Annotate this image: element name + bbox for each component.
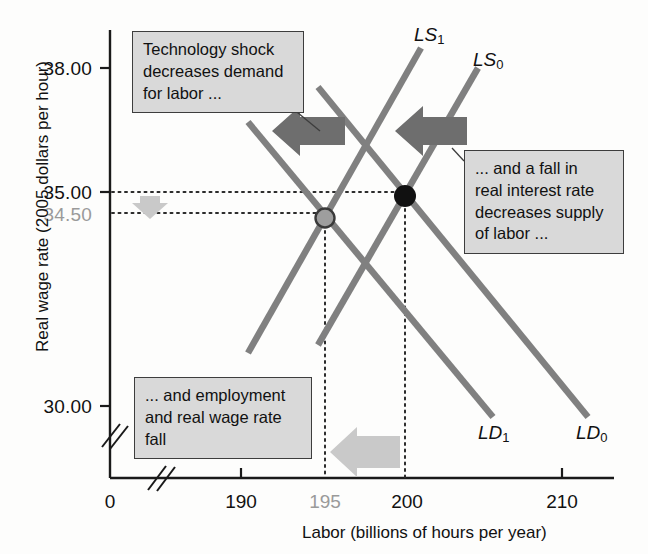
curve-label-LS0: LS0 <box>473 49 503 71</box>
callout-employment-fall-line-1: ... and employment <box>145 385 302 407</box>
y-axis-title: Real wage rate (2005 dollars per hour) <box>34 37 51 377</box>
callout-technology-shock-line-2: decreases demand <box>143 61 294 83</box>
curve-label-LS1-sub: 1 <box>437 32 444 47</box>
x-axis-ticks <box>241 468 562 478</box>
x-axis-title: Labor (billions of hours per year) <box>302 524 547 541</box>
callout-employment-fall-line-3: fall <box>145 429 302 451</box>
equilibrium-new <box>316 209 335 228</box>
curve-label-LS1: LS1 <box>414 24 444 46</box>
arrow-demand-shift <box>272 106 345 156</box>
axis-break-y <box>102 424 128 449</box>
callout-technology-shock: Technology shock decreases demand for la… <box>132 31 304 113</box>
callout-real-interest-rate-line-2: real interest rate <box>475 180 614 202</box>
equilibrium-initial <box>394 185 416 207</box>
arrow-wage-fall <box>132 196 168 219</box>
callout-employment-fall-line-2: and real wage rate <box>145 407 302 429</box>
x-tick-0: 0 <box>90 492 130 511</box>
curve-label-LD0-text: LD <box>576 422 600 443</box>
callout-real-interest-rate-line-3: decreases supply <box>475 202 614 224</box>
callout-technology-shock-line-1: Technology shock <box>143 39 294 61</box>
curve-label-LD1-sub: 1 <box>502 430 509 445</box>
curve-label-LD0-sub: 0 <box>600 430 607 445</box>
callout-real-interest-rate: ... and a fall in real interest rate dec… <box>464 150 624 254</box>
plot-area <box>0 0 648 554</box>
callout-technology-shock-line-3: for labor ... <box>143 83 294 105</box>
x-tick-210: 210 <box>532 492 592 511</box>
labor-market-chart: 38.00 35.00 34.50 30.00 0 190 195 200 21… <box>0 0 648 554</box>
curve-label-LD0: LD0 <box>576 422 608 444</box>
callout-employment-fall: ... and employment and real wage rate fa… <box>134 377 312 459</box>
callout-real-interest-rate-line-4: of labor ... <box>475 223 614 245</box>
curve-label-LS0-sub: 0 <box>496 57 503 72</box>
curve-LD1 <box>248 122 493 417</box>
x-tick-195: 195 <box>295 492 355 511</box>
curve-label-LS1-text: LS <box>414 24 437 45</box>
x-tick-190: 190 <box>211 492 271 511</box>
y-tick-30: 30.00 <box>10 397 92 416</box>
arrow-employment-fall <box>330 427 400 477</box>
y-axis-ticks <box>100 68 110 406</box>
x-tick-200: 200 <box>377 492 437 511</box>
curve-label-LS0-text: LS <box>473 49 496 70</box>
curve-label-LD1: LD1 <box>478 422 510 444</box>
callout-real-interest-rate-line-1: ... and a fall in <box>475 158 614 180</box>
curve-label-LD1-text: LD <box>478 422 502 443</box>
